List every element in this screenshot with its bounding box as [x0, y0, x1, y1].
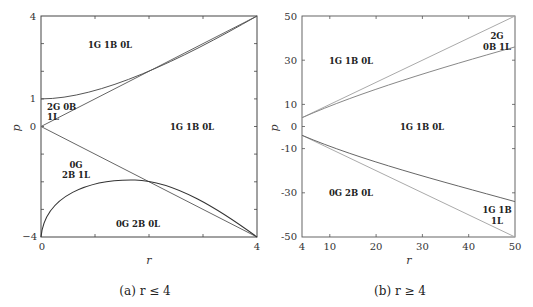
- region-label-a-mid: 1G 1B 0L: [170, 122, 214, 132]
- region-label-b-0b1l: 0B 1L: [483, 42, 511, 52]
- region-label-b-1l: 1L: [491, 216, 503, 226]
- xtick-b-40: 40: [462, 241, 475, 252]
- ylabel-a: p: [10, 124, 23, 131]
- xtick-b-10: 10: [323, 241, 336, 252]
- ytick-a-4: 4: [30, 11, 36, 22]
- xtick-b-50: 50: [509, 241, 522, 252]
- ylabel-b: p: [268, 124, 281, 131]
- ytick-a-neg4: −4: [22, 231, 37, 242]
- region-label-b-1g1b: 1G 1B: [482, 205, 511, 215]
- region-label-b-mid: 1G 1B 0L: [400, 122, 444, 132]
- xlabel-b: r: [406, 254, 412, 267]
- region-label-a-1l: 1L: [47, 112, 59, 122]
- plot-frame-a: [41, 16, 257, 237]
- ytick-b-neg10: -10: [281, 143, 297, 154]
- xtick-b-20: 20: [370, 241, 383, 252]
- ytick-b-neg50: -50: [281, 231, 297, 242]
- line-p-eq-neg-r-b: [302, 135, 515, 237]
- ytick-a-0: 0: [30, 121, 36, 132]
- xtick-a-0: 0: [39, 241, 45, 252]
- panel-a: 4 1 0 −4 0 4 r p 1G 1B 0L 2G 0B 1L 1G 1B…: [10, 11, 260, 298]
- region-label-b-top: 1G 1B 0L: [329, 56, 373, 66]
- caption-a: (a) r ≤ 4: [119, 284, 171, 298]
- xtick-b-4: 4: [299, 241, 305, 252]
- line-p-eq-r-b: [302, 16, 515, 118]
- ticks-a: [41, 16, 257, 237]
- ytick-b-0: 0: [291, 121, 297, 132]
- xtick-a-4: 4: [254, 241, 260, 252]
- region-label-a-0g: 0G: [69, 160, 82, 170]
- region-label-b-2g: 2G: [490, 31, 503, 41]
- figure: 4 1 0 −4 0 4 r p 1G 1B 0L 2G 0B 1L 1G 1B…: [0, 0, 533, 307]
- ytick-b-50: 50: [284, 11, 297, 22]
- ytick-b-10: 10: [284, 99, 297, 110]
- caption-b: (b) r ≥ 4: [374, 284, 426, 298]
- ytick-b-neg30: -30: [281, 187, 297, 198]
- region-label-b-bottom: 0G 2B 0L: [329, 188, 373, 198]
- panel-b: 50 30 10 0 -10 -30 -50 4 10 20 30 40 50 …: [268, 11, 521, 298]
- ytick-a-1: 1: [30, 93, 36, 104]
- xlabel-a: r: [146, 254, 152, 267]
- region-label-a-top: 1G 1B 0L: [88, 40, 132, 50]
- xtick-b-30: 30: [416, 241, 429, 252]
- region-label-a-2g0b: 2G 0B: [47, 102, 76, 112]
- region-label-a-bottom: 0G 2B 0L: [116, 219, 160, 229]
- ytick-b-30: 30: [284, 55, 297, 66]
- upper-boundary-curve-a: [41, 16, 257, 99]
- region-label-a-2b1l: 2B 1L: [62, 170, 90, 180]
